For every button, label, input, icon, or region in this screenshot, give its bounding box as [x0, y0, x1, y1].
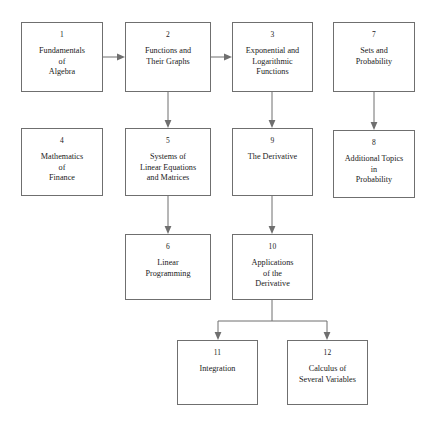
node-chapter-3[interactable]: 3 Exponential and Logarithmic Functions: [232, 22, 313, 92]
node-number: 4: [22, 136, 102, 145]
node-number: 12: [288, 348, 367, 357]
node-number: 9: [233, 136, 312, 145]
node-chapter-6[interactable]: 6 Linear Programming: [125, 234, 211, 300]
node-title: Applications of the Derivative: [233, 258, 312, 290]
node-title: Systems of Linear Equations and Matrices: [126, 152, 210, 184]
edge-ch5-to-ch6: [165, 196, 172, 234]
node-number: 10: [233, 242, 312, 251]
edge-ch10-split-bus: [218, 300, 327, 321]
node-chapter-9[interactable]: 9 The Derivative: [232, 128, 313, 196]
node-title: Sets and Probability: [334, 46, 414, 67]
node-title: Mathematics of Finance: [22, 152, 102, 184]
edge-ch3-to-ch9: [269, 92, 276, 128]
node-title: Calculus of Several Variables: [288, 364, 367, 385]
edge-ch9-to-ch10: [269, 196, 276, 234]
node-number: 6: [126, 242, 210, 251]
node-title: Integration: [178, 364, 257, 375]
node-chapter-1[interactable]: 1 Fundamentals of Algebra: [21, 22, 103, 92]
node-chapter-7[interactable]: 7 Sets and Probability: [333, 22, 415, 92]
node-chapter-8[interactable]: 8 Additional Topics in Probability: [333, 130, 415, 198]
edge-ch2-to-ch3: [211, 54, 232, 61]
node-title: Linear Programming: [126, 258, 210, 279]
node-chapter-4[interactable]: 4 Mathematics of Finance: [21, 128, 103, 196]
node-number: 7: [334, 30, 414, 39]
node-number: 11: [178, 348, 257, 357]
chapter-dependency-flowchart: 1 Fundamentals of Algebra 2 Functions an…: [0, 0, 436, 434]
node-title: Functions and Their Graphs: [126, 46, 210, 67]
node-title: Exponential and Logarithmic Functions: [233, 46, 312, 78]
node-chapter-10[interactable]: 10 Applications of the Derivative: [232, 234, 313, 300]
node-chapter-12[interactable]: 12 Calculus of Several Variables: [287, 340, 368, 405]
node-chapter-2[interactable]: 2 Functions and Their Graphs: [125, 22, 211, 92]
node-title: The Derivative: [233, 152, 312, 163]
edge-ch1-to-ch2: [103, 54, 125, 61]
node-number: 3: [233, 30, 312, 39]
node-title: Fundamentals of Algebra: [22, 46, 102, 78]
node-number: 2: [126, 30, 210, 39]
edge-ch7-to-ch8: [371, 92, 378, 130]
edge-ch2-to-ch5: [165, 92, 172, 128]
node-number: 1: [22, 30, 102, 39]
edge-ch10-to-ch12: [324, 321, 331, 340]
node-number: 8: [334, 138, 414, 147]
edge-ch10-to-ch11: [215, 321, 222, 340]
node-chapter-5[interactable]: 5 Systems of Linear Equations and Matric…: [125, 128, 211, 196]
node-number: 5: [126, 136, 210, 145]
node-title: Additional Topics in Probability: [334, 154, 414, 186]
node-chapter-11[interactable]: 11 Integration: [177, 340, 258, 405]
